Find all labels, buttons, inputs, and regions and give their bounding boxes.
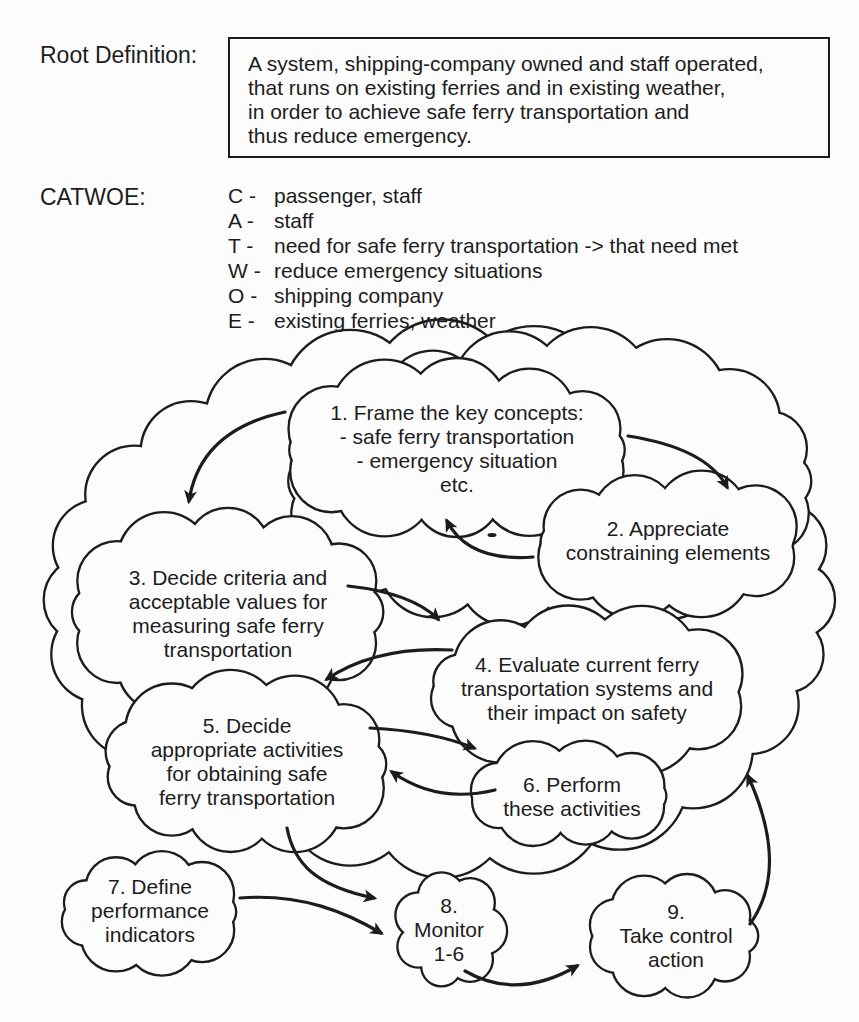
catwoe-list: C - passenger, staff A - staff T - need … (228, 183, 738, 333)
catwoe-row-o: O - shipping company (228, 283, 738, 308)
root-definition-label: Root Definition: (40, 42, 197, 68)
cloud-3-label: 3. Decide criteria and acceptable values… (88, 566, 368, 662)
cloud-4-label: 4. Evaluate current ferry transportation… (427, 653, 747, 725)
catwoe-letter-e: E - (228, 308, 274, 333)
catwoe-label: CATWOE: (40, 184, 146, 210)
catwoe-row-w: W - reduce emergency situations (228, 258, 738, 283)
catwoe-text-t: need for safe ferry transportation -> th… (274, 233, 738, 258)
catwoe-row-a: A - staff (228, 208, 738, 233)
catwoe-text-c: passenger, staff (274, 183, 738, 208)
catwoe-text-e: existing ferries; weather (274, 308, 738, 333)
scan-speckle (488, 533, 497, 537)
catwoe-letter-w: W - (228, 258, 274, 283)
cloud-6-label: 6. Perform these activities (462, 773, 682, 821)
catwoe-row-e: E - existing ferries; weather (228, 308, 738, 333)
cloud-8-label: 8. Monitor 1-6 (384, 894, 514, 966)
cloud-7-label: 7. Define performance indicators (45, 875, 255, 947)
catwoe-letter-t: T - (228, 233, 274, 258)
cloud-1-label: 1. Frame the key concepts: - safe ferry … (292, 401, 622, 497)
root-definition-text: A system, shipping-company owned and sta… (248, 52, 820, 148)
cloud-9-label: 9. Take control action (581, 900, 771, 972)
arrow-7-to-8 (240, 897, 381, 933)
catwoe-letter-o: O - (228, 283, 274, 308)
cloud-2-label: 2. Appreciate constraining elements (518, 517, 818, 565)
cloud-5-label: 5. Decide appropriate activities for obt… (112, 714, 382, 810)
root-definition-box: A system, shipping-company owned and sta… (228, 37, 830, 158)
catwoe-row-c: C - passenger, staff (228, 183, 738, 208)
catwoe-letter-a: A - (228, 208, 274, 233)
catwoe-text-a: staff (274, 208, 738, 233)
document-page: Root Definition: A system, shipping-comp… (0, 0, 859, 1022)
catwoe-text-w: reduce emergency situations (274, 258, 738, 283)
catwoe-letter-c: C - (228, 183, 274, 208)
catwoe-text-o: shipping company (274, 283, 738, 308)
catwoe-row-t: T - need for safe ferry transportation -… (228, 233, 738, 258)
